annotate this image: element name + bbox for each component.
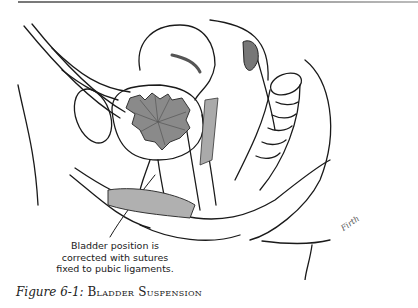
- anatomical-illustration: [0, 0, 418, 280]
- figure-title: Bladder Suspension: [87, 285, 202, 299]
- pubic-bone: [67, 84, 118, 148]
- callout-line: corrected with sutures: [40, 252, 190, 264]
- callout-line: fixed to pubic ligaments.: [40, 263, 190, 275]
- figure-caption: Figure 6-1: Bladder Suspension: [16, 285, 202, 299]
- callout-line: Bladder position is: [40, 240, 190, 252]
- callout-text: Bladder position is corrected with sutur…: [40, 240, 190, 275]
- abdominal-wall: [24, 26, 120, 118]
- rectum: [235, 90, 270, 180]
- figure-number: Figure 6-1:: [16, 285, 84, 299]
